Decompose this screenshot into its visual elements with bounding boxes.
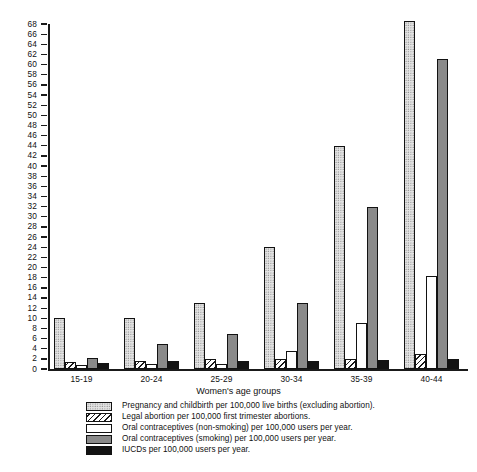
- bar-group: [334, 24, 389, 369]
- bar: [65, 362, 76, 369]
- y-axis-tick-label: 22: [0, 252, 37, 262]
- legend-item: Pregnancy and childbirth per 100,000 liv…: [86, 401, 426, 411]
- legend-swatch: [86, 402, 112, 411]
- bar: [135, 361, 146, 369]
- y-axis-tick-label: 52: [0, 100, 37, 110]
- y-axis-tick-label: 10: [0, 313, 37, 323]
- y-axis-tick-mark: [41, 216, 47, 217]
- y-axis-tick-label: 38: [0, 171, 37, 181]
- y-axis-tick-mark: [41, 267, 47, 268]
- y-axis-tick-label: 18: [0, 272, 37, 282]
- bar: [297, 303, 308, 369]
- y-axis-tick-mark: [41, 186, 47, 187]
- y-axis-tick-mark: [41, 226, 47, 227]
- y-axis-tick-mark: [41, 94, 47, 95]
- y-axis-tick-mark: [41, 318, 47, 319]
- y-axis-tick-label: 6: [0, 333, 37, 343]
- x-axis-tick-label: 30-34: [262, 374, 322, 384]
- y-axis-tick-label: 36: [0, 181, 37, 191]
- y-axis-tick-mark: [41, 145, 47, 146]
- y-axis-tick-mark: [41, 328, 47, 329]
- bar: [426, 276, 437, 369]
- y-axis-tick-mark: [41, 135, 47, 136]
- y-axis-tick-label: 34: [0, 191, 37, 201]
- y-axis-tick-label: 42: [0, 150, 37, 160]
- legend-swatch: [86, 424, 112, 433]
- bar: [194, 303, 205, 369]
- x-axis-line: [48, 369, 468, 371]
- y-axis-tick-label: 20: [0, 262, 37, 272]
- y-axis-tick-mark: [41, 308, 47, 309]
- y-axis-tick-label: 4: [0, 343, 37, 353]
- plot-area: [48, 24, 468, 369]
- y-axis-tick-label: 44: [0, 140, 37, 150]
- bar: [87, 358, 98, 369]
- x-axis-tick-label: 35-39: [332, 374, 392, 384]
- y-axis-tick-label: 54: [0, 90, 37, 100]
- y-axis-tick-mark: [41, 64, 47, 65]
- x-axis-tick-label: 25-29: [192, 374, 252, 384]
- bar-group: [54, 24, 109, 369]
- y-axis-tick-mark: [41, 196, 47, 197]
- bar: [76, 365, 87, 369]
- bar-group: [194, 24, 249, 369]
- y-axis-tick-mark: [41, 34, 47, 35]
- legend-label: Oral contraceptives (smoking) per 100,00…: [122, 434, 336, 444]
- y-axis-tick-label: 0: [0, 364, 37, 374]
- legend-label: Oral contraceptives (non-smoking) per 10…: [122, 423, 353, 433]
- bar: [124, 318, 135, 369]
- y-axis-tick-label: 28: [0, 221, 37, 231]
- legend-item: Legal abortion per 100,000 first trimest…: [86, 412, 426, 422]
- bar: [448, 359, 459, 369]
- bar: [157, 344, 168, 369]
- bar: [367, 207, 378, 369]
- y-axis-tick-mark: [41, 84, 47, 85]
- bar: [334, 146, 345, 369]
- y-axis-tick-label: 56: [0, 79, 37, 89]
- y-axis-tick-label: 66: [0, 29, 37, 39]
- y-axis-tick-label: 16: [0, 282, 37, 292]
- bar: [356, 323, 367, 369]
- y-axis-tick-label: 64: [0, 39, 37, 49]
- bar-group: [124, 24, 179, 369]
- y-axis-tick-mark: [41, 277, 47, 278]
- bar: [264, 247, 275, 369]
- y-axis-tick-label: 32: [0, 201, 37, 211]
- legend-swatch: [86, 413, 112, 422]
- y-axis-tick-mark: [41, 125, 47, 126]
- bar: [146, 364, 157, 369]
- y-axis-tick-label: 46: [0, 130, 37, 140]
- y-axis-tick-mark: [41, 257, 47, 258]
- x-axis-tick-label: 20-24: [122, 374, 182, 384]
- y-axis-tick-label: 58: [0, 69, 37, 79]
- chart-container: 0246810121416182022242628303234363840424…: [0, 0, 477, 472]
- bar: [275, 359, 286, 369]
- legend-label: Legal abortion per 100,000 first trimest…: [122, 412, 310, 422]
- legend-swatch: [86, 435, 112, 444]
- y-axis-tick-mark: [41, 74, 47, 75]
- bar: [168, 361, 179, 369]
- bar: [227, 334, 238, 370]
- y-axis-tick-mark: [41, 44, 47, 45]
- y-axis-tick-mark: [41, 297, 47, 298]
- y-axis-tick-label: 60: [0, 59, 37, 69]
- legend-swatch: [86, 446, 112, 455]
- legend-item: Oral contraceptives (smoking) per 100,00…: [86, 434, 426, 444]
- bar: [286, 351, 297, 369]
- x-axis-tick-label: 15-19: [52, 374, 112, 384]
- y-axis-tick-mark: [41, 115, 47, 116]
- y-axis-tick-label: 68: [0, 19, 37, 29]
- bar-group: [404, 24, 459, 369]
- bar: [98, 363, 109, 369]
- x-axis-tick-label: 40-44: [402, 374, 462, 384]
- chart-legend: Pregnancy and childbirth per 100,000 liv…: [86, 401, 426, 456]
- bar-group: [264, 24, 319, 369]
- y-axis-tick-label: 12: [0, 303, 37, 313]
- bar: [205, 359, 216, 369]
- y-axis-tick-label: 2: [0, 353, 37, 363]
- y-axis-tick-mark: [41, 247, 47, 248]
- y-axis-tick-mark: [41, 358, 47, 359]
- y-axis-tick-mark: [41, 338, 47, 339]
- bar: [415, 354, 426, 369]
- y-axis-tick-mark: [41, 206, 47, 207]
